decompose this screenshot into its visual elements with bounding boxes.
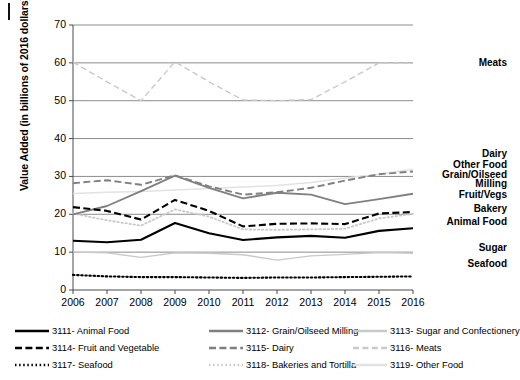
series-label-dairy: Dairy: [482, 148, 507, 159]
legend-swatch: [14, 359, 50, 370]
series-label-seafood: Seafood: [468, 258, 507, 269]
legend-label: 3114- Fruit and Vegetable: [52, 342, 159, 353]
legend-label: 3119- Other Food: [390, 359, 463, 370]
chart-legend: 3111- Animal Food3112- Grain/Oilseed Mil…: [0, 322, 513, 380]
series-label-milling: Milling: [475, 178, 507, 189]
legend-label: 3112- Grain/Oilseed Milling: [246, 325, 358, 336]
series-line-sugar: [73, 252, 413, 260]
legend-label: 3118- Bakeries and Tortilla: [246, 359, 356, 370]
legend-swatch: [14, 325, 50, 336]
series-label-animal-food: Animal Food: [446, 216, 507, 227]
series-line-grain-oilseed-milling: [73, 176, 413, 215]
legend-label: 3115- Dairy: [246, 342, 294, 353]
legend-swatch: [352, 342, 388, 353]
series-label-fruit-vegs: Fruit/Vegs: [459, 189, 507, 200]
legend-swatch: [208, 325, 244, 336]
legend-label: 3117- Seafood: [52, 359, 113, 370]
series-line-fruit-vegs: [73, 200, 413, 227]
legend-item[interactable]: 3112- Grain/Oilseed Milling: [208, 322, 352, 339]
series-line-other-food: [73, 169, 413, 193]
series-line-meats: [73, 62, 413, 101]
series-label-bakery: Bakery: [474, 203, 507, 214]
legend-item[interactable]: 3116- Meats: [352, 339, 513, 356]
series-line-seafood: [73, 275, 413, 278]
legend-item[interactable]: 3113- Sugar and Confectionery: [352, 322, 513, 339]
legend-item[interactable]: 3111- Animal Food: [14, 322, 208, 339]
legend-item[interactable]: 3119- Other Food: [352, 356, 513, 373]
legend-item[interactable]: 3117- Seafood: [14, 356, 208, 373]
legend-item[interactable]: 3114- Fruit and Vegetable: [14, 339, 208, 356]
legend-item[interactable]: 3115- Dairy: [208, 339, 352, 356]
legend-label: 3113- Sugar and Confectionery: [390, 325, 520, 336]
legend-swatch: [14, 342, 50, 353]
legend-label: 3116- Meats: [390, 342, 441, 353]
legend-label: 3111- Animal Food: [52, 325, 129, 336]
legend-swatch: [352, 359, 388, 370]
legend-swatch: [208, 359, 244, 370]
legend-swatch: [208, 342, 244, 353]
series-line-dairy: [73, 172, 413, 195]
series-label-sugar: Sugar: [479, 242, 507, 253]
series-label-meats: Meats: [479, 57, 507, 68]
legend-swatch: [352, 325, 388, 336]
legend-item[interactable]: 3118- Bakeries and Tortilla: [208, 356, 352, 373]
